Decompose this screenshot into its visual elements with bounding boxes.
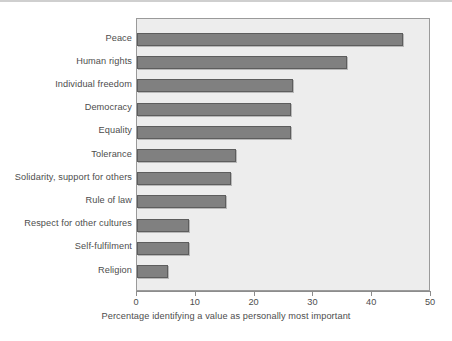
- x-axis-title: Percentage identifying a value as person…: [0, 311, 452, 322]
- bar: [137, 33, 403, 46]
- x-axis-tick-label: 0: [121, 297, 151, 308]
- y-axis-tick-label: Peace: [0, 33, 132, 44]
- y-axis-tick-label: Respect for other cultures: [0, 218, 132, 229]
- x-axis-tick-label: 30: [297, 297, 327, 308]
- y-axis-tick-label: Religion: [0, 265, 132, 276]
- bar: [137, 219, 189, 232]
- x-axis-tick: [371, 291, 372, 296]
- y-axis-tick-label: Democracy: [0, 102, 132, 113]
- x-axis-tick: [195, 291, 196, 296]
- bar: [137, 242, 189, 255]
- x-axis-tick: [312, 291, 313, 296]
- y-axis-tick-label: Individual freedom: [0, 79, 132, 90]
- bar: [137, 103, 291, 116]
- x-axis-tick: [136, 291, 137, 296]
- y-axis-tick-label: Equality: [0, 125, 132, 136]
- bars-layer: [137, 19, 429, 290]
- bar: [137, 56, 347, 69]
- y-axis-tick-label: Human rights: [0, 56, 132, 67]
- bar-chart: PeaceHuman rightsIndividual freedomDemoc…: [0, 0, 452, 341]
- y-axis-tick-label: Rule of law: [0, 195, 132, 206]
- x-axis-tick: [254, 291, 255, 296]
- x-axis-tick-label: 20: [239, 297, 269, 308]
- plot-area: [136, 18, 430, 291]
- x-axis-tick-label: 50: [415, 297, 445, 308]
- y-axis-tick-label: Tolerance: [0, 149, 132, 160]
- y-axis-tick-label: Self-fulfilment: [0, 241, 132, 252]
- bar: [137, 79, 293, 92]
- page-top-rule: [0, 0, 452, 2]
- x-axis-tick-label: 40: [356, 297, 386, 308]
- y-axis-category-labels: PeaceHuman rightsIndividual freedomDemoc…: [0, 18, 132, 291]
- bar: [137, 195, 226, 208]
- y-axis-tick-label: Solidarity, support for others: [0, 172, 132, 183]
- x-axis-tick-label: 10: [180, 297, 210, 308]
- bar: [137, 265, 168, 278]
- bar: [137, 172, 231, 185]
- bar: [137, 149, 236, 162]
- x-axis-line: [136, 291, 430, 292]
- bar: [137, 126, 291, 139]
- x-axis-tick: [430, 291, 431, 296]
